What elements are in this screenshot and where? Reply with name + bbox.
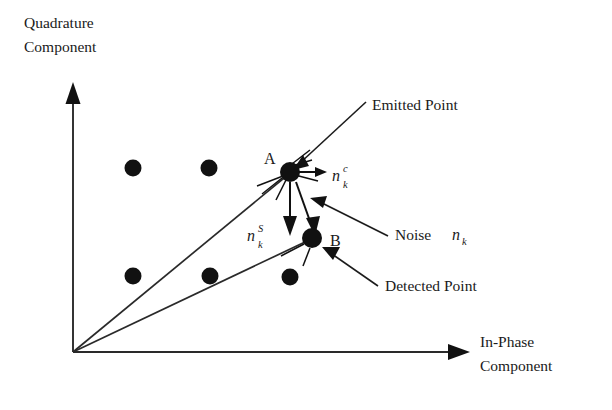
axes-group bbox=[66, 82, 471, 360]
noise-inphase-subscript: k bbox=[343, 179, 348, 190]
leader-detected-point bbox=[332, 254, 378, 286]
in-phase-axis-label-line1: In-Phase bbox=[480, 333, 534, 350]
callout-noise-math-sub: k bbox=[462, 236, 467, 247]
quadrature-axis-label-line1: Quadrature bbox=[24, 14, 94, 31]
arrow-right-icon bbox=[315, 167, 327, 177]
detected-point-label: B bbox=[330, 232, 341, 249]
noise-component-inphase-label: n c k bbox=[332, 163, 348, 190]
constellation-diagram-figure: Quadrature Component In-Phase Component … bbox=[0, 0, 612, 410]
ray-origin-to-emitted bbox=[73, 178, 284, 352]
noise-quadrature-subscript: k bbox=[258, 239, 263, 250]
leader-emitted-point bbox=[300, 102, 366, 163]
callout-noise-math-base: n bbox=[452, 226, 460, 243]
leader-noise bbox=[320, 202, 388, 236]
noise-quadrature-superscript: S bbox=[258, 223, 264, 234]
constellation-dot-3 bbox=[125, 268, 142, 285]
arrow-right-icon bbox=[448, 344, 470, 360]
callout-emitted-point: Emitted Point bbox=[372, 96, 458, 113]
constellation-dots-group bbox=[125, 160, 299, 286]
noise-inphase-base: n bbox=[332, 167, 340, 184]
callout-detected-point: Detected Point bbox=[385, 277, 477, 294]
noise-inphase-superscript: c bbox=[343, 163, 348, 174]
noise-component-quadrature-label: n S k bbox=[247, 223, 264, 250]
callout-noise-word: Noise bbox=[395, 226, 431, 243]
arrow-down-icon bbox=[283, 216, 297, 236]
diagram-canvas: Quadrature Component In-Phase Component … bbox=[0, 0, 612, 410]
constellation-dot-5 bbox=[282, 269, 299, 286]
constellation-dot-4 bbox=[202, 268, 219, 285]
noise-quadrature-base: n bbox=[247, 227, 255, 244]
origin-rays-group bbox=[73, 178, 305, 352]
noise-ray-b-1 bbox=[281, 244, 304, 256]
constellation-dot-2 bbox=[201, 160, 218, 177]
noise-ray-b-2 bbox=[303, 248, 310, 266]
arrow-up-icon bbox=[66, 82, 81, 104]
detected-point-marker bbox=[302, 228, 322, 248]
in-phase-axis-label-line2: Component bbox=[480, 357, 553, 374]
arrow-left-icon bbox=[310, 196, 327, 208]
callout-leaders-group bbox=[293, 102, 388, 286]
constellation-dot-1 bbox=[125, 160, 142, 177]
callout-noise: Noise n k bbox=[395, 226, 467, 247]
emitted-point-label: A bbox=[264, 150, 276, 167]
quadrature-axis-label-line2: Component bbox=[24, 38, 97, 55]
ray-origin-to-detected bbox=[73, 242, 305, 352]
